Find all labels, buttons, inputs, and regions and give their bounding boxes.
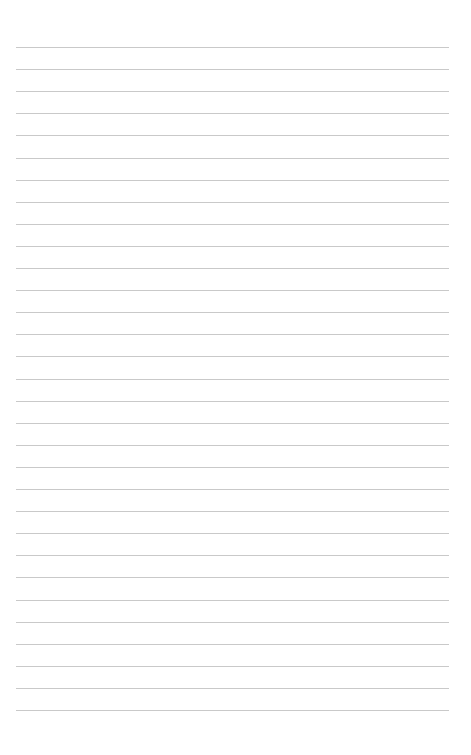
ruled-line xyxy=(16,622,449,623)
ruled-line xyxy=(16,533,449,534)
ruled-line xyxy=(16,710,449,711)
ruled-line xyxy=(16,688,449,689)
ruled-line xyxy=(16,202,449,203)
ruled-line xyxy=(16,401,449,402)
ruled-line xyxy=(16,135,449,136)
ruled-line xyxy=(16,379,449,380)
ruled-line xyxy=(16,158,449,159)
lined-notebook-page xyxy=(0,0,471,755)
ruled-line xyxy=(16,224,449,225)
ruled-line xyxy=(16,268,449,269)
ruled-line xyxy=(16,356,449,357)
ruled-line xyxy=(16,69,449,70)
ruled-line xyxy=(16,91,449,92)
ruled-line xyxy=(16,555,449,556)
ruled-line xyxy=(16,180,449,181)
ruled-line xyxy=(16,467,449,468)
ruled-line xyxy=(16,246,449,247)
ruled-line xyxy=(16,489,449,490)
ruled-line xyxy=(16,423,449,424)
ruled-line xyxy=(16,644,449,645)
ruled-line xyxy=(16,113,449,114)
ruled-line xyxy=(16,600,449,601)
ruled-line xyxy=(16,312,449,313)
ruled-line xyxy=(16,511,449,512)
ruled-line xyxy=(16,577,449,578)
ruled-line xyxy=(16,334,449,335)
ruled-line xyxy=(16,290,449,291)
ruled-line xyxy=(16,47,449,48)
ruled-line xyxy=(16,666,449,667)
ruled-line xyxy=(16,445,449,446)
